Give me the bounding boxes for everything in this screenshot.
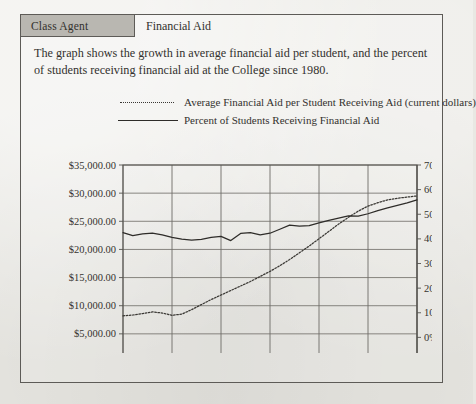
y-axis-right-tick-label: 30%: [424, 258, 432, 269]
y-axis-left-tick-label: $5,000.00: [74, 328, 116, 339]
y-axis-left-tick-label: $15,000.00: [69, 272, 116, 283]
y-axis-right-tick-label: 60%: [424, 184, 432, 195]
y-axis-right-tick-label: 70%: [424, 160, 432, 171]
y-axis-right-tick-label: 10%: [424, 307, 432, 318]
y-axis-left-tick-label: $35,000.00: [69, 160, 116, 171]
legend-label-percent-students: Percent of Students Receiving Financial …: [184, 114, 379, 126]
y-axis-right-tick-label: 50%: [424, 209, 432, 220]
page-title-label: Financial Aid: [146, 19, 211, 34]
y-axis-left-tick-label: $20,000.00: [69, 244, 116, 255]
y-axis-right-tick-label: 20%: [424, 283, 432, 294]
chart-legend: Average Financial Aid per Student Receiv…: [118, 93, 438, 129]
legend-label-average-aid: Average Financial Aid per Student Receiv…: [184, 96, 476, 108]
y-axis-left-tick-label: $30,000.00: [69, 188, 116, 199]
description-text: The graph shows the growth in average fi…: [34, 45, 430, 78]
tab-class-agent[interactable]: Class Agent: [21, 15, 135, 37]
tab-bar: Class Agent Financial Aid: [21, 15, 442, 37]
legend-item-average-aid: Average Financial Aid per Student Receiv…: [118, 93, 438, 111]
chart-plot: $-$5,000.00$10,000.00$15,000.00$20,000.0…: [34, 131, 432, 353]
content-frame: Class Agent Financial Aid The graph show…: [20, 14, 443, 383]
legend-item-percent-students: Percent of Students Receiving Financial …: [118, 111, 438, 129]
tab-class-agent-label: Class Agent: [31, 20, 88, 32]
legend-swatch-dotted-icon: [118, 97, 178, 107]
y-axis-right-tick-label: 40%: [424, 233, 432, 244]
page-title: Financial Aid: [146, 15, 211, 37]
chart: $-$5,000.00$10,000.00$15,000.00$20,000.0…: [34, 131, 432, 353]
y-axis-left-tick-label: $10,000.00: [69, 300, 116, 311]
legend-swatch-solid-icon: [118, 115, 178, 125]
y-axis-left-tick-label: $25,000.00: [69, 216, 116, 227]
y-axis-right-tick-label: 0%: [424, 332, 432, 343]
